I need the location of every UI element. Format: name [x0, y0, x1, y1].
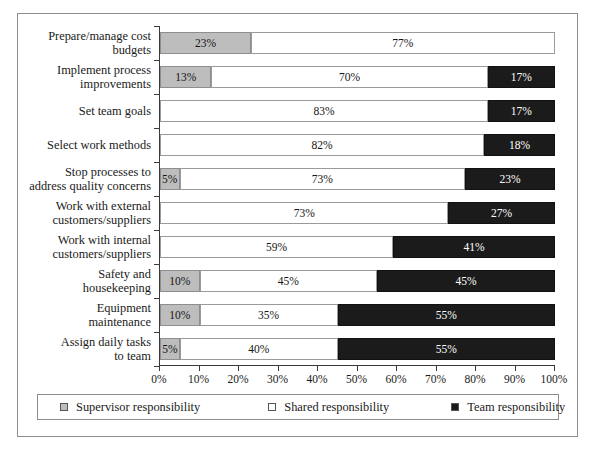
legend-swatch-icon — [268, 403, 276, 411]
category-label: Work with internalcustomers/suppliers — [0, 230, 151, 264]
category-label: Implement processimprovements — [0, 60, 151, 94]
stacked-bar: 5%73%23% — [160, 168, 555, 190]
bar-segment-value: 23% — [195, 37, 216, 49]
category-label-line: Stop processes to — [65, 165, 151, 179]
stacked-bar: 73%27% — [160, 202, 555, 224]
bar-segment-value: 35% — [258, 309, 279, 321]
chart-row: Select work methods82%18% — [159, 128, 554, 162]
bar-segment-value: 23% — [499, 173, 520, 185]
chart-row: Safety andhousekeeping10%45%45% — [159, 264, 554, 298]
chart-row: Prepare/manage costbudgets23%77% — [159, 26, 554, 60]
category-label-line: Select work methods — [47, 138, 151, 152]
bar-segment-shared: 59% — [160, 236, 393, 258]
chart-row: Work with externalcustomers/suppliers73%… — [159, 196, 554, 230]
bar-segment-shared: 77% — [251, 32, 555, 54]
x-axis-tick — [554, 366, 555, 371]
x-axis-tick — [199, 366, 200, 371]
y-axis-tick — [154, 60, 160, 61]
legend-label: Supervisor responsibility — [76, 400, 200, 415]
stacked-bar: 59%41% — [160, 236, 555, 258]
y-axis-tick — [154, 162, 160, 163]
category-label-line: improvements — [80, 77, 151, 91]
legend-label: Team responsibility — [467, 400, 565, 415]
y-axis-tick — [154, 128, 160, 129]
legend-item: Team responsibility — [451, 400, 565, 415]
bar-segment-value: 59% — [266, 241, 287, 253]
x-axis-tick — [238, 366, 239, 371]
y-axis-tick — [154, 196, 160, 197]
x-axis-tick — [357, 366, 358, 371]
chart-row: Set team goals83%17% — [159, 94, 554, 128]
y-axis-tick — [154, 94, 160, 95]
bar-segment-value: 17% — [511, 105, 532, 117]
bar-segment-shared: 35% — [200, 304, 338, 326]
y-axis-tick — [154, 264, 160, 265]
category-label: Work with externalcustomers/suppliers — [0, 196, 151, 230]
bar-segment-supervisor: 10% — [160, 304, 200, 326]
bar-segment-value: 40% — [248, 343, 269, 355]
category-label: Set team goals — [0, 94, 151, 128]
category-label-line: Set team goals — [79, 104, 151, 118]
y-axis-tick — [154, 366, 160, 367]
x-axis-tick-label: 40% — [306, 373, 327, 385]
legend-swatch-icon — [451, 403, 459, 411]
y-axis-tick — [154, 26, 160, 27]
stacked-bar: 82%18% — [160, 134, 555, 156]
bar-segment-shared: 45% — [200, 270, 378, 292]
category-label-line: Work with internal — [58, 233, 151, 247]
bar-segment-shared: 82% — [160, 134, 484, 156]
chart-row: Work with internalcustomers/suppliers59%… — [159, 230, 554, 264]
chart-row: Assign daily tasksto team5%40%55% — [159, 332, 554, 366]
bar-segment-team: 27% — [448, 202, 555, 224]
bar-segment-shared: 73% — [160, 202, 448, 224]
y-axis-tick — [154, 298, 160, 299]
x-axis-tick — [436, 366, 437, 371]
bar-segment-supervisor: 5% — [160, 168, 180, 190]
bar-segment-value: 17% — [511, 71, 532, 83]
chart-legend: Supervisor responsibilityShared responsi… — [37, 394, 559, 420]
bar-segment-shared: 40% — [180, 338, 338, 360]
category-label: Stop processes toaddress quality concern… — [0, 162, 151, 196]
bar-segment-value: 18% — [509, 139, 530, 151]
chart-row: Implement processimprovements13%70%17% — [159, 60, 554, 94]
category-label: Prepare/manage costbudgets — [0, 26, 151, 60]
chart-row: Stop processes toaddress quality concern… — [159, 162, 554, 196]
stacked-bar: 5%40%55% — [160, 338, 555, 360]
bar-segment-value: 73% — [312, 173, 333, 185]
category-label: Equipmentmaintenance — [0, 298, 151, 332]
bar-segment-team: 55% — [338, 304, 555, 326]
bar-segment-shared: 70% — [211, 66, 488, 88]
legend-swatch-icon — [60, 403, 68, 411]
x-axis-tick-label: 70% — [425, 373, 446, 385]
category-label-line: budgets — [112, 43, 151, 57]
x-axis-tick-label: 50% — [346, 373, 367, 385]
category-label-line: housekeeping — [83, 281, 151, 295]
bar-segment-value: 13% — [175, 71, 196, 83]
bar-segment-team: 17% — [488, 66, 555, 88]
bar-segment-value: 27% — [491, 207, 512, 219]
category-label-line: Implement process — [57, 63, 151, 77]
category-label: Select work methods — [0, 128, 151, 162]
x-axis-tick — [396, 366, 397, 371]
stacked-bar: 83%17% — [160, 100, 555, 122]
bar-segment-value: 82% — [311, 139, 332, 151]
bar-segment-team: 17% — [488, 100, 555, 122]
plot-area: Prepare/manage costbudgets23%77%Implemen… — [159, 26, 554, 366]
x-axis-tick — [278, 366, 279, 371]
bar-segment-value: 41% — [463, 241, 484, 253]
x-axis-tick-label: 90% — [504, 373, 525, 385]
x-axis-tick-label: 0% — [151, 373, 166, 385]
bar-segment-supervisor: 13% — [160, 66, 211, 88]
bar-segment-shared: 83% — [160, 100, 488, 122]
x-axis-tick — [475, 366, 476, 371]
category-label-line: Assign daily tasks — [61, 335, 151, 349]
category-label-line: customers/suppliers — [53, 247, 151, 261]
bar-segment-value: 10% — [169, 309, 190, 321]
x-axis-tick-label: 10% — [188, 373, 209, 385]
bar-segment-team: 55% — [338, 338, 555, 360]
category-label-line: maintenance — [88, 315, 151, 329]
stacked-bar: 13%70%17% — [160, 66, 555, 88]
y-axis-tick — [154, 332, 160, 333]
legend-item: Supervisor responsibility — [60, 400, 200, 415]
bar-segment-value: 5% — [162, 173, 177, 185]
